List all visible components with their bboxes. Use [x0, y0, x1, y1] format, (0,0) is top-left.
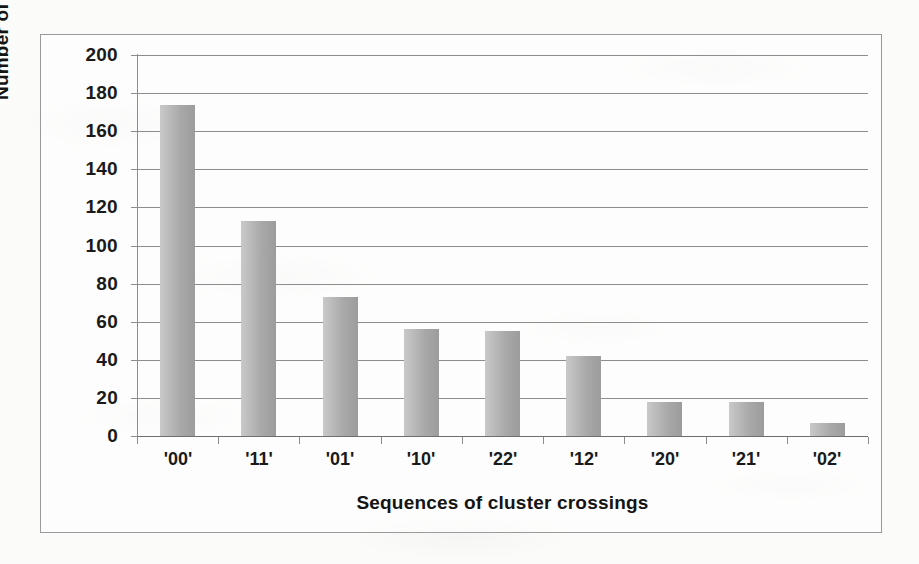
x-axis-tick [624, 437, 625, 444]
bar [160, 105, 195, 436]
x-axis-tick-label: '12' [570, 449, 599, 470]
y-axis-tick-label: 80 [70, 273, 118, 295]
y-axis-tick-label: 100 [70, 235, 118, 257]
x-axis-tick-label: '11' [245, 449, 273, 470]
x-axis-title: Sequences of cluster crossings [137, 492, 868, 514]
bar [323, 297, 358, 436]
bar [485, 331, 520, 436]
y-axis-tick-label: 200 [70, 44, 118, 66]
bar [404, 329, 439, 436]
plot-area [137, 55, 868, 436]
bar [810, 423, 845, 436]
x-axis-tick [462, 437, 463, 444]
y-axis-tick-label: 60 [70, 311, 118, 333]
y-axis-tick-label: 160 [70, 120, 118, 142]
bar [566, 356, 601, 436]
x-axis-tick-label: '20' [651, 449, 680, 470]
x-axis-tick-label: '00' [164, 449, 193, 470]
x-axis-tick-label: '21' [732, 449, 761, 470]
x-axis-tick [137, 437, 138, 444]
x-axis-tick [787, 437, 788, 444]
bar [729, 402, 764, 436]
x-axis-tick [218, 437, 219, 444]
x-axis-tick [706, 437, 707, 444]
bar [241, 221, 276, 436]
y-axis-tick-label: 40 [70, 349, 118, 371]
x-axis-tick [299, 437, 300, 444]
bar [647, 402, 682, 436]
x-axis-tick-label: '22' [489, 449, 518, 470]
y-axis-tick-label: 0 [70, 425, 118, 447]
x-axis-tick [868, 437, 869, 444]
x-axis-tick [543, 437, 544, 444]
x-axis-tick-label: '02' [813, 449, 842, 470]
y-axis-tick-label: 180 [70, 82, 118, 104]
y-axis-tick-label: 120 [70, 196, 118, 218]
y-axis-tick-label: 140 [70, 158, 118, 180]
x-axis-line [131, 436, 868, 437]
x-axis-tick-label: '01' [326, 449, 355, 470]
x-axis-tick [381, 437, 382, 444]
y-axis-title: Number of crossings [0, 0, 13, 100]
y-axis-tick-label: 20 [70, 387, 118, 409]
x-axis-tick-label: '10' [407, 449, 436, 470]
